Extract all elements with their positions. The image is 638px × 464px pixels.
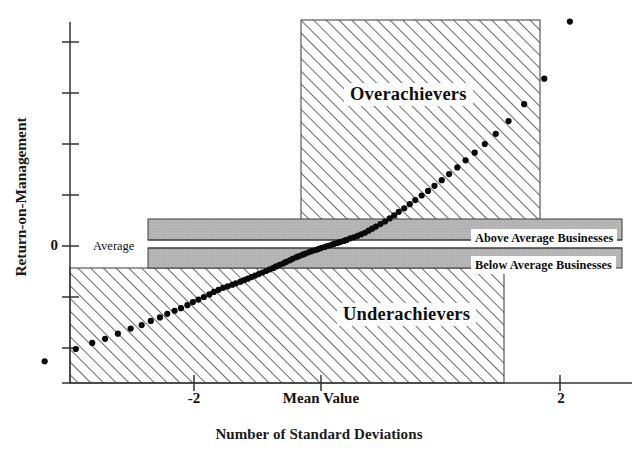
data-point xyxy=(541,76,547,82)
data-point xyxy=(446,171,452,177)
data-point xyxy=(148,318,154,324)
above-average-band-label: Above Average Businesses xyxy=(471,229,617,247)
data-point xyxy=(454,164,460,170)
data-point xyxy=(439,177,445,183)
data-point xyxy=(407,201,413,207)
data-point xyxy=(472,150,478,156)
data-point xyxy=(190,299,196,305)
y-axis-title: Return-on-Management xyxy=(8,2,34,392)
data-point xyxy=(178,305,184,311)
x-tick-label-mean-value: Mean Value xyxy=(266,390,376,407)
data-point xyxy=(431,183,437,189)
data-point xyxy=(396,209,402,215)
x-tick-label-two: 2 xyxy=(546,390,576,407)
data-point xyxy=(164,311,170,317)
data-point xyxy=(201,294,207,300)
data-point xyxy=(102,336,108,342)
data-point xyxy=(42,358,48,364)
below-average-band-label: Below Average Businesses xyxy=(471,256,616,274)
y-tick-label-zero: 0 xyxy=(36,237,58,254)
data-point xyxy=(521,101,527,107)
data-point xyxy=(412,197,418,203)
data-point xyxy=(89,340,95,346)
data-point xyxy=(482,141,488,147)
chart-figure: Return-on-Management Number of Standard … xyxy=(0,0,638,464)
data-point xyxy=(425,188,431,194)
data-point xyxy=(73,346,79,352)
average-line-label: Average xyxy=(93,239,134,254)
data-point xyxy=(195,296,201,302)
overachievers-region xyxy=(301,20,540,220)
x-axis-title: Number of Standard Deviations xyxy=(0,426,638,443)
data-point xyxy=(505,118,511,124)
data-point xyxy=(139,322,145,328)
data-point xyxy=(128,326,134,332)
data-point xyxy=(419,192,425,198)
data-point xyxy=(172,308,178,314)
data-point xyxy=(184,302,190,308)
overachievers-region-label: Overachievers xyxy=(344,83,473,106)
data-point xyxy=(462,157,468,163)
data-point xyxy=(157,314,163,320)
data-point xyxy=(401,205,407,211)
underachievers-region-label: Underachievers xyxy=(337,303,476,326)
data-point xyxy=(115,331,121,337)
data-point xyxy=(567,19,573,25)
x-tick-label-minus-two: -2 xyxy=(174,390,214,407)
data-point xyxy=(493,131,499,137)
